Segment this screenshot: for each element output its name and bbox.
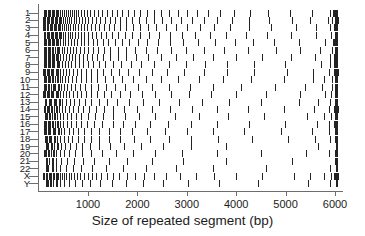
repeat-mark — [90, 143, 91, 150]
repeat-mark — [186, 61, 187, 68]
repeat-mark — [98, 10, 99, 17]
repeat-mark — [77, 69, 78, 76]
repeat-mark — [56, 180, 58, 187]
row-leader-tick — [29, 57, 38, 58]
repeat-mark — [60, 91, 61, 98]
repeat-mark — [50, 61, 51, 68]
repeat-mark — [45, 32, 46, 39]
repeat-mark — [330, 24, 331, 31]
repeat-mark — [330, 10, 331, 17]
repeat-mark — [146, 47, 147, 54]
repeat-mark — [250, 10, 251, 17]
repeat-mark — [226, 143, 227, 150]
repeat-mark — [214, 173, 215, 180]
repeat-mark — [336, 91, 338, 98]
repeat-mark — [63, 113, 64, 120]
repeat-mark — [61, 143, 62, 150]
repeat-mark — [50, 76, 51, 83]
repeat-mark — [248, 106, 249, 113]
repeat-mark — [57, 136, 58, 143]
repeat-mark — [69, 54, 70, 61]
repeat-mark — [76, 76, 77, 83]
repeat-mark — [65, 143, 66, 150]
repeat-mark — [72, 54, 73, 61]
repeat-mark — [154, 10, 155, 17]
repeat-mark — [81, 121, 82, 128]
repeat-mark — [246, 32, 247, 39]
repeat-mark — [102, 121, 103, 128]
repeat-mark — [300, 47, 301, 54]
repeat-mark — [187, 128, 188, 135]
repeat-mark — [49, 113, 51, 120]
repeat-mark — [126, 24, 127, 31]
repeat-mark — [64, 150, 65, 157]
repeat-mark — [59, 61, 60, 68]
repeat-mark — [118, 32, 119, 39]
repeat-mark — [71, 39, 72, 46]
repeat-mark — [253, 39, 254, 46]
repeat-mark — [96, 17, 97, 24]
repeat-mark — [58, 91, 59, 98]
repeat-mark — [120, 136, 121, 143]
repeat-mark — [284, 76, 285, 83]
repeat-mark — [292, 158, 293, 165]
repeat-mark — [191, 121, 192, 128]
repeat-mark — [48, 24, 49, 31]
repeat-mark — [45, 69, 46, 76]
repeat-mark — [61, 84, 62, 91]
repeat-mark — [176, 165, 177, 172]
repeat-mark — [110, 143, 111, 150]
repeat-mark — [65, 32, 66, 39]
repeat-mark — [78, 32, 79, 39]
repeat-mark — [122, 10, 123, 17]
repeat-mark — [152, 158, 153, 165]
repeat-mark — [316, 32, 317, 39]
repeat-mark — [214, 24, 215, 31]
repeat-mark — [336, 128, 338, 135]
repeat-mark — [60, 173, 61, 180]
repeat-mark — [96, 106, 97, 113]
repeat-mark — [161, 10, 162, 17]
chromosome-row-5 — [38, 39, 343, 46]
repeat-mark — [75, 32, 76, 39]
repeat-mark — [296, 24, 297, 31]
repeat-mark — [176, 24, 177, 31]
repeat-mark — [82, 180, 83, 187]
repeat-mark — [84, 128, 85, 135]
repeat-mark — [81, 24, 82, 31]
repeat-mark — [94, 158, 95, 165]
repeat-mark — [63, 17, 64, 24]
repeat-mark — [44, 173, 45, 180]
repeat-mark — [107, 173, 108, 180]
repeat-mark — [136, 54, 137, 61]
repeat-mark — [148, 24, 149, 31]
repeat-mark — [87, 10, 88, 17]
repeat-mark — [52, 76, 54, 83]
x-tick-3000 — [187, 191, 188, 196]
repeat-mark — [104, 47, 105, 54]
repeat-mark — [94, 10, 95, 17]
repeat-mark — [78, 136, 79, 143]
repeat-mark — [78, 24, 79, 31]
repeat-mark — [328, 17, 329, 24]
repeat-mark — [122, 39, 123, 46]
repeat-mark — [336, 113, 338, 120]
repeat-mark — [57, 121, 59, 128]
repeat-mark — [262, 173, 263, 180]
repeat-mark — [332, 76, 333, 83]
repeat-mark — [170, 32, 171, 39]
repeat-mark — [90, 180, 91, 187]
repeat-mark — [92, 54, 93, 61]
repeat-mark — [46, 99, 47, 106]
chromosome-row-19 — [38, 143, 343, 150]
repeat-mark — [54, 136, 56, 143]
repeat-mark — [313, 69, 314, 76]
repeat-mark — [106, 32, 107, 39]
repeat-mark — [75, 61, 76, 68]
repeat-mark — [219, 180, 220, 187]
repeat-mark — [329, 106, 330, 113]
repeat-mark — [79, 99, 80, 106]
row-leader-tick — [29, 109, 38, 110]
repeat-mark — [60, 121, 61, 128]
repeat-mark — [47, 173, 48, 180]
